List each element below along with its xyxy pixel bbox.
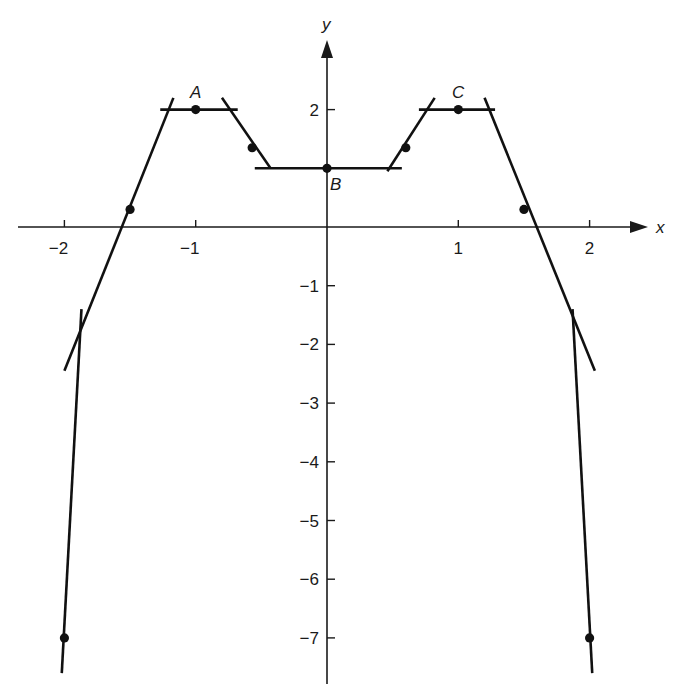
y-axis-label: y: [321, 15, 332, 34]
point-c: [454, 105, 463, 114]
tangent-segment: [573, 309, 593, 673]
y-tick-label: −1: [300, 277, 319, 296]
point-dot: [60, 633, 69, 642]
point-dot: [519, 205, 528, 214]
x-ticks: −2−112: [49, 220, 595, 258]
point-dot: [585, 633, 594, 642]
x-tick-label: −2: [49, 239, 68, 258]
y-tick-label: −6: [300, 570, 319, 589]
tangent-segments: [62, 98, 595, 673]
tangent-line-graph: x y −2−112 2−1−2−3−4−5−6−7 A B C: [0, 0, 679, 697]
y-tick-label: −5: [300, 512, 319, 531]
point-label-c: C: [452, 83, 465, 102]
tangent-segment: [485, 98, 595, 371]
point-dot: [125, 205, 134, 214]
x-tick-label: 2: [585, 239, 594, 258]
point-a: [191, 105, 200, 114]
y-tick-label: −3: [300, 394, 319, 413]
y-tick-label: −2: [300, 335, 319, 354]
x-axis-arrow-icon: [630, 221, 648, 233]
y-tick-label: 2: [310, 101, 319, 120]
tangent-segment: [64, 98, 173, 371]
y-axis-arrow-icon: [321, 40, 333, 58]
point-label-a: A: [189, 83, 201, 102]
axes: x y: [18, 15, 665, 684]
point-label-b: B: [330, 175, 341, 194]
tangent-segment: [62, 309, 82, 673]
y-tick-label: −4: [300, 453, 319, 472]
x-tick-label: −1: [180, 239, 199, 258]
x-axis-label: x: [655, 218, 665, 237]
point-dot: [248, 143, 257, 152]
point-dot: [401, 143, 410, 152]
y-tick-label: −7: [300, 629, 319, 648]
x-tick-label: 1: [454, 239, 463, 258]
tangent-segment: [222, 98, 271, 168]
point-b: [322, 164, 331, 173]
